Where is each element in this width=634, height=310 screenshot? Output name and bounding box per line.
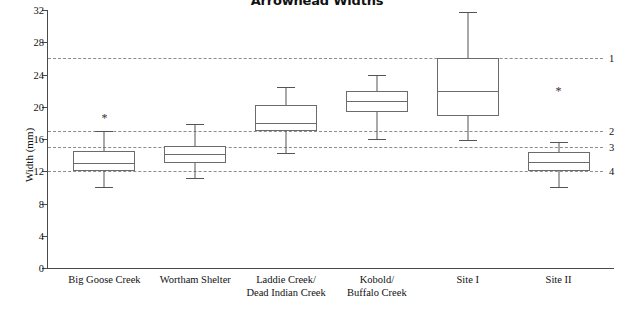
lower-whisker — [195, 163, 196, 178]
lower-whisker-cap — [95, 187, 113, 188]
boxplot-6[interactable]: *Site II — [494, 10, 624, 268]
x-axis-label-line1: Site II — [546, 274, 572, 285]
x-axis-label-6: Site II — [494, 273, 624, 286]
lower-whisker-cap — [459, 140, 477, 141]
lower-whisker — [376, 112, 377, 139]
x-axis-line — [47, 268, 614, 269]
upper-whisker-cap — [277, 87, 295, 88]
upper-whisker — [286, 87, 287, 105]
lower-whisker-cap — [186, 178, 204, 179]
upper-whisker — [376, 75, 377, 91]
upper-whisker-cap — [95, 131, 113, 132]
lower-whisker-cap — [368, 139, 386, 140]
lower-whisker — [104, 171, 105, 187]
x-axis-label-line2: Buffalo Creek — [312, 286, 442, 299]
median-line — [346, 101, 408, 102]
box-iqr[interactable] — [255, 105, 317, 131]
median-line — [255, 123, 317, 124]
lower-whisker-cap — [550, 187, 568, 188]
lower-whisker — [286, 131, 287, 153]
upper-whisker-cap — [550, 142, 568, 143]
median-line — [164, 154, 226, 155]
plot-area: 048121620242832 1234 *Big Goose CreekWor… — [47, 10, 614, 268]
outlier-marker-1: * — [556, 85, 562, 97]
upper-whisker — [467, 12, 468, 58]
box-iqr[interactable] — [73, 151, 135, 171]
lower-whisker — [558, 171, 559, 186]
median-line — [437, 91, 499, 92]
upper-whisker-cap — [186, 124, 204, 125]
box-iqr[interactable] — [437, 58, 499, 116]
boxplot-figure: Arrowhead Widths Width (mm) 048121620242… — [0, 0, 634, 310]
x-axis-label-line1: Kobold/ — [360, 274, 394, 285]
upper-whisker — [558, 142, 559, 152]
x-axis-label-line1: Laddie Creek/ — [256, 274, 316, 285]
median-line — [73, 163, 135, 164]
upper-whisker-cap — [459, 12, 477, 13]
x-axis-label-line1: Site I — [457, 274, 479, 285]
upper-whisker — [104, 131, 105, 151]
lower-whisker-cap — [277, 153, 295, 154]
median-line — [528, 162, 590, 163]
upper-whisker-cap — [368, 75, 386, 76]
outlier-marker-1: * — [101, 112, 107, 124]
lower-whisker — [467, 116, 468, 139]
chart-title: Arrowhead Widths — [0, 0, 634, 8]
upper-whisker — [195, 124, 196, 146]
